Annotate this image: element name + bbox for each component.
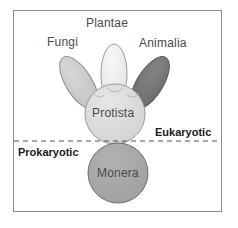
kingdom-label-animalia: Animalia — [139, 36, 187, 50]
kingdom-label-monera: Monera — [97, 166, 139, 180]
kingdom-label-fungi: Fungi — [47, 35, 78, 49]
domain-label-eukaryotic: Eukaryotic — [155, 126, 211, 138]
kingdom-label-protista: Protista — [92, 106, 134, 120]
kingdom-label-plantae: Plantae — [86, 16, 128, 30]
domain-label-prokaryotic: Prokaryotic — [18, 146, 79, 158]
five-kingdoms-diagram-page: Plantae Fungi Animalia Protista Monera E… — [0, 0, 238, 228]
